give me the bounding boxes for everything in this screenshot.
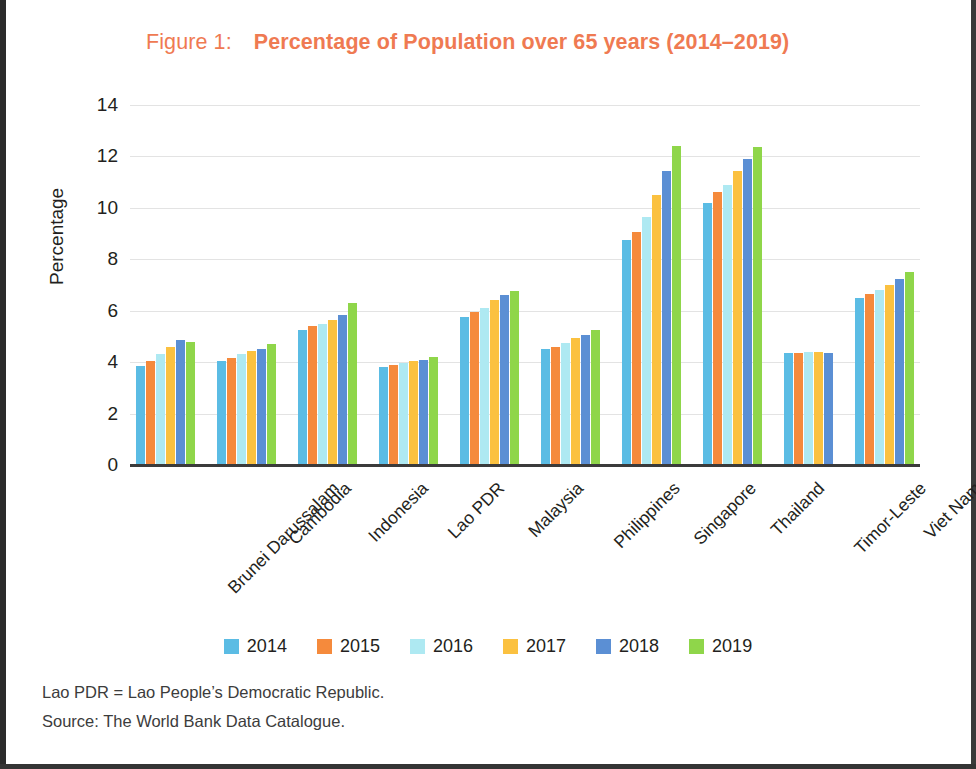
legend-item[interactable]: 2014 xyxy=(224,636,287,657)
bar[interactable] xyxy=(257,349,266,465)
bar[interactable] xyxy=(652,195,661,465)
y-tick-label: 0 xyxy=(107,454,118,476)
legend-swatch-icon xyxy=(410,639,425,654)
legend-label: 2016 xyxy=(433,636,473,657)
bar[interactable] xyxy=(480,308,489,465)
x-axis-label: Malaysia xyxy=(524,478,588,542)
bar[interactable] xyxy=(632,232,641,465)
bar[interactable] xyxy=(784,353,793,465)
y-tick-label: 8 xyxy=(107,248,118,270)
bar-group xyxy=(784,105,833,465)
legend-swatch-icon xyxy=(596,639,611,654)
bar[interactable] xyxy=(500,295,509,465)
bar[interactable] xyxy=(136,366,145,465)
bar-group xyxy=(298,105,357,465)
bar[interactable] xyxy=(541,349,550,465)
bar[interactable] xyxy=(865,294,874,465)
bar[interactable] xyxy=(662,171,671,465)
bar[interactable] xyxy=(804,352,813,465)
bar[interactable] xyxy=(642,217,651,465)
bar[interactable] xyxy=(409,361,418,465)
legend-item[interactable]: 2019 xyxy=(689,636,752,657)
bar[interactable] xyxy=(490,300,499,465)
bar[interactable] xyxy=(672,146,681,465)
bar[interactable] xyxy=(267,344,276,465)
bar[interactable] xyxy=(176,340,185,465)
x-axis-label: Singapore xyxy=(689,478,760,549)
y-tick-label: 2 xyxy=(107,403,118,425)
bar[interactable] xyxy=(622,240,631,465)
figure-title-text: Percentage of Population over 65 years (… xyxy=(254,30,790,54)
bar[interactable] xyxy=(227,358,236,465)
bar[interactable] xyxy=(166,347,175,465)
legend-swatch-icon xyxy=(503,639,518,654)
bar[interactable] xyxy=(814,352,823,465)
y-tick-label: 14 xyxy=(97,94,118,116)
bar[interactable] xyxy=(733,171,742,465)
bar[interactable] xyxy=(824,353,833,465)
bar[interactable] xyxy=(723,185,732,465)
x-axis-labels: Brunei DarussalamCambodiaIndonesiaLao PD… xyxy=(130,470,920,600)
bar[interactable] xyxy=(399,363,408,465)
bar[interactable] xyxy=(308,326,317,465)
bar[interactable] xyxy=(338,315,347,465)
x-axis-label: Viet Nam xyxy=(919,478,976,544)
bar[interactable] xyxy=(895,279,904,465)
page-edge-bottom xyxy=(0,764,976,769)
bar[interactable] xyxy=(905,272,914,465)
y-tick-label: 12 xyxy=(97,145,118,167)
bar[interactable] xyxy=(298,330,307,465)
bar-group xyxy=(541,105,600,465)
bar[interactable] xyxy=(348,303,357,465)
legend-label: 2018 xyxy=(619,636,659,657)
bar[interactable] xyxy=(713,192,722,465)
bar[interactable] xyxy=(743,159,752,465)
bar[interactable] xyxy=(247,351,256,465)
legend-item[interactable]: 2015 xyxy=(317,636,380,657)
bar[interactable] xyxy=(379,367,388,465)
bar-group xyxy=(622,105,681,465)
bar[interactable] xyxy=(794,353,803,465)
y-tick-label: 10 xyxy=(97,197,118,219)
bar-group xyxy=(379,105,438,465)
legend-item[interactable]: 2018 xyxy=(596,636,659,657)
x-axis-line xyxy=(130,464,920,467)
bar-group xyxy=(703,105,762,465)
bar[interactable] xyxy=(186,342,195,465)
bar[interactable] xyxy=(753,147,762,465)
figure-number-label: Figure 1: xyxy=(146,30,232,54)
abbreviation-note: Lao PDR = Lao People’s Democratic Republ… xyxy=(42,678,384,707)
legend-item[interactable]: 2017 xyxy=(503,636,566,657)
bar[interactable] xyxy=(146,361,155,465)
bar[interactable] xyxy=(510,291,519,465)
legend-swatch-icon xyxy=(689,639,704,654)
bar-group xyxy=(460,105,519,465)
bar[interactable] xyxy=(703,203,712,465)
bar[interactable] xyxy=(591,330,600,465)
legend-label: 2014 xyxy=(247,636,287,657)
bar[interactable] xyxy=(237,354,246,465)
bar[interactable] xyxy=(217,361,226,465)
bar-group xyxy=(136,105,195,465)
bar[interactable] xyxy=(460,317,469,465)
bar[interactable] xyxy=(419,360,428,465)
bar[interactable] xyxy=(470,312,479,465)
bar[interactable] xyxy=(875,290,884,465)
bar[interactable] xyxy=(429,357,438,465)
bar[interactable] xyxy=(885,285,894,465)
bar[interactable] xyxy=(551,347,560,465)
bar[interactable] xyxy=(328,320,337,465)
bar[interactable] xyxy=(571,338,580,465)
bar-groups xyxy=(130,105,920,465)
bar-group xyxy=(217,105,276,465)
x-axis-label: Lao PDR xyxy=(443,478,508,543)
bar[interactable] xyxy=(561,343,570,465)
bar[interactable] xyxy=(389,365,398,465)
bar[interactable] xyxy=(581,335,590,465)
y-tick-label: 4 xyxy=(107,351,118,373)
bar[interactable] xyxy=(855,298,864,465)
bar[interactable] xyxy=(156,354,165,465)
bar[interactable] xyxy=(318,324,327,465)
legend-item[interactable]: 2016 xyxy=(410,636,473,657)
y-tick-label: 6 xyxy=(107,300,118,322)
